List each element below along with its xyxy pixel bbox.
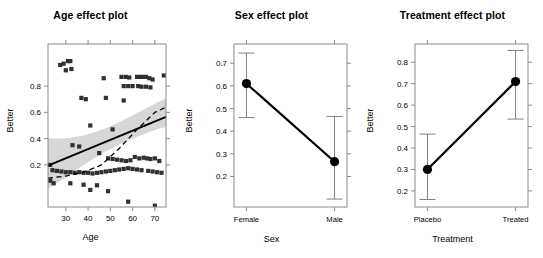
scatter-point-marker	[153, 156, 157, 160]
scatter-point-marker	[131, 84, 135, 88]
scatter-point-marker	[52, 181, 56, 185]
scatter-point-marker	[99, 170, 103, 174]
scatter-point-marker	[117, 167, 121, 171]
age-effect-plot-area: 30405060700.20.40.60.8	[0, 0, 181, 258]
scatter-point-marker	[126, 166, 130, 170]
age-x-tick-label: 70	[150, 214, 159, 223]
scatter-point-marker	[88, 123, 92, 127]
age-x-tick-label: 60	[128, 214, 137, 223]
scatter-point-marker	[157, 159, 161, 163]
scatter-point-marker	[155, 170, 159, 174]
age-y-tick-label: 0.2	[30, 161, 42, 170]
scatter-point-marker	[108, 169, 112, 173]
scatter-point-marker	[133, 155, 137, 159]
scatter-point-marker	[68, 59, 72, 63]
treatment-effect-plot-area: 0.20.30.40.50.60.70.8PlaceboTreated	[362, 0, 543, 258]
treatment-x-axis-title: Treatment	[362, 234, 543, 245]
panel-treatment-effect: Treatment effect plot 0.20.30.40.50.60.7…	[362, 0, 543, 258]
scatter-point-marker	[148, 157, 152, 161]
treatment-y-tick-label: 0.7	[397, 80, 409, 89]
sex-y-tick-label: 0.6	[216, 82, 228, 91]
scatter-point-marker	[58, 63, 62, 67]
scatter-point-marker	[88, 188, 92, 192]
scatter-point-marker	[104, 169, 108, 173]
sex-x-category-label: Female	[234, 215, 259, 224]
treatment-y-tick-label: 0.3	[397, 165, 409, 174]
scatter-point-marker	[148, 85, 152, 89]
scatter-point-marker	[64, 68, 68, 72]
scatter-point-marker	[111, 157, 115, 161]
scatter-point-marker	[104, 96, 108, 100]
scatter-point-marker	[115, 158, 119, 162]
scatter-point-marker	[95, 171, 99, 175]
scatter-point-marker	[126, 200, 130, 204]
scatter-point-marker	[59, 169, 63, 173]
scatter-point-marker	[151, 169, 155, 173]
age-x-tick-label: 50	[106, 214, 115, 223]
age-y-axis-title: Better	[5, 101, 16, 141]
sex-x-category-label: Male	[326, 215, 342, 224]
scatter-point-marker	[86, 171, 90, 175]
scatter-point-marker	[77, 144, 81, 148]
treatment-y-axis-title: Better	[365, 101, 376, 141]
treatment-y-tick-label: 0.4	[397, 144, 409, 153]
scatter-point-marker	[111, 127, 115, 131]
scatter-point-marker	[84, 97, 88, 101]
scatter-point-marker	[82, 183, 86, 187]
scatter-point-marker	[55, 169, 59, 173]
scatter-point-marker	[69, 67, 73, 71]
age-x-tick-label: 30	[61, 214, 70, 223]
scatter-point-marker	[135, 167, 139, 171]
scatter-point-marker	[68, 181, 72, 185]
scatter-point-marker	[162, 73, 166, 77]
scatter-point-marker	[97, 151, 101, 155]
sex-effect-point-marker	[242, 79, 251, 88]
sex-effect-plot-area: 0.20.30.40.50.60.7FemaleMale	[181, 0, 362, 258]
scatter-point-marker	[139, 85, 143, 89]
treatment-effect-line	[427, 82, 515, 170]
treatment-y-tick-label: 0.2	[397, 187, 409, 196]
sex-plot-box	[234, 44, 347, 207]
sex-y-tick-label: 0.5	[216, 105, 228, 114]
treatment-y-tick-label: 0.8	[397, 58, 409, 67]
scatter-point-marker	[122, 84, 126, 88]
treatment-x-category-label: Treated	[503, 215, 529, 224]
scatter-point-marker	[79, 96, 83, 100]
scatter-point-marker	[122, 167, 126, 171]
treatment-effect-point-marker	[511, 77, 520, 86]
panel-age-effect: Age effect plot 30405060700.20.40.60.8 A…	[0, 0, 181, 258]
sex-y-tick-label: 0.7	[216, 59, 228, 68]
sex-y-axis-title: Better	[184, 101, 195, 141]
age-x-axis-title: Age	[0, 232, 181, 243]
scatter-point-marker	[50, 168, 54, 172]
scatter-point-marker	[159, 171, 163, 175]
scatter-point-marker	[144, 85, 148, 89]
scatter-point-marker	[70, 143, 74, 147]
scatter-point-marker	[102, 76, 106, 80]
effect-plots-figure: Age effect plot 30405060700.20.40.60.8 A…	[0, 0, 543, 258]
age-confidence-band	[48, 99, 166, 189]
scatter-point-marker	[68, 170, 72, 174]
treatment-y-tick-label: 0.6	[397, 101, 409, 110]
treatment-effect-point-marker	[423, 165, 432, 174]
scatter-point-marker	[126, 84, 130, 88]
scatter-point-marker	[137, 156, 141, 160]
scatter-point-marker	[146, 169, 150, 173]
age-x-tick-label: 40	[84, 214, 93, 223]
sex-y-tick-label: 0.2	[216, 172, 228, 181]
sex-x-axis-title: Sex	[181, 234, 362, 245]
scatter-point-marker	[119, 75, 123, 79]
sex-effect-line	[246, 84, 334, 162]
scatter-point-marker	[113, 168, 117, 172]
sex-y-tick-label: 0.4	[216, 127, 228, 136]
panel-sex-effect: Sex effect plot 0.20.30.40.50.60.7Female…	[181, 0, 362, 258]
sex-effect-point-marker	[330, 157, 339, 166]
age-y-tick-label: 0.8	[30, 82, 42, 91]
scatter-point-marker	[106, 189, 110, 193]
scatter-point-marker	[128, 158, 132, 162]
scatter-point-marker	[124, 159, 128, 163]
treatment-x-category-label: Placebo	[414, 215, 441, 224]
scatter-point-marker	[90, 171, 94, 175]
treatment-y-tick-label: 0.5	[397, 123, 409, 132]
age-y-tick-label: 0.6	[30, 108, 42, 117]
